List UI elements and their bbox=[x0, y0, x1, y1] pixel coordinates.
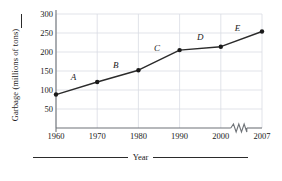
data-point-marker bbox=[177, 48, 181, 52]
x-axis-title: Year bbox=[33, 150, 248, 164]
x-axis-title-rule-left bbox=[33, 157, 128, 158]
zigzag-break-icon bbox=[231, 124, 247, 132]
x-axis-title-rule-right bbox=[153, 157, 248, 158]
gridlines bbox=[56, 14, 262, 128]
segment-label-b: B bbox=[113, 60, 119, 70]
data-point-marker bbox=[95, 80, 99, 84]
data-point-marker bbox=[54, 92, 58, 96]
x-axis-title-text: Year bbox=[128, 152, 154, 162]
axis-break-icon bbox=[231, 124, 247, 132]
data-line bbox=[56, 31, 262, 94]
garbage-line-chart: Garbage (millions of tons) 5010015020025… bbox=[0, 0, 282, 181]
data-point-markers bbox=[54, 29, 264, 96]
segment-label-c: C bbox=[154, 43, 160, 53]
segment-label-e: E bbox=[235, 23, 241, 33]
data-point-marker bbox=[260, 29, 264, 33]
segment-label-a: A bbox=[71, 72, 77, 82]
data-point-marker bbox=[219, 44, 223, 48]
data-point-marker bbox=[136, 68, 140, 72]
segment-label-d: D bbox=[197, 32, 204, 42]
